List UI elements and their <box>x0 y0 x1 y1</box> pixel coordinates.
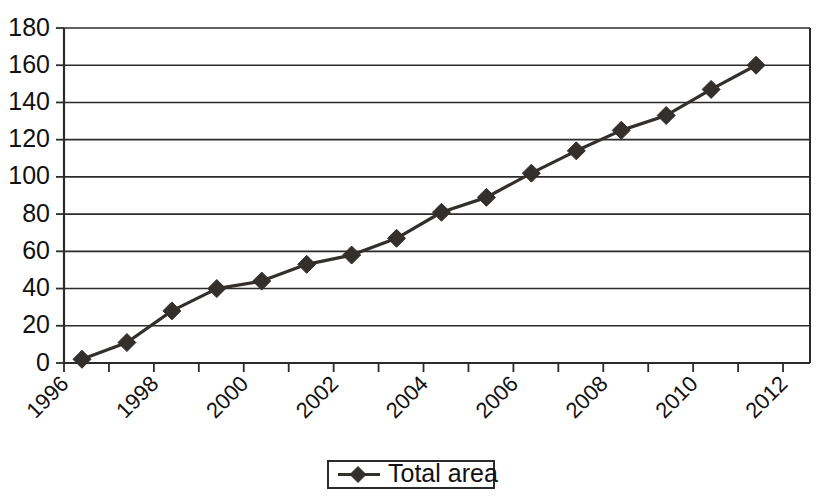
y-tick-label: 40 <box>22 273 50 301</box>
legend-entry-label: Total area <box>388 459 498 487</box>
y-tick-label: 120 <box>8 124 50 152</box>
chart-container: 0204060801001201401601801996199820002002… <box>0 0 817 502</box>
y-tick-label: 60 <box>22 236 50 264</box>
data-point-marker <box>612 121 630 139</box>
y-tick-label: 0 <box>36 348 50 376</box>
data-point-marker <box>522 164 540 182</box>
data-point-marker <box>343 246 361 264</box>
x-tick-label: 2010 <box>650 371 702 423</box>
line-chart: 0204060801001201401601801996199820002002… <box>0 0 817 502</box>
data-point-marker <box>567 142 585 160</box>
y-tick-label: 80 <box>22 199 50 227</box>
y-tick-label: 140 <box>8 87 50 115</box>
data-point-marker <box>702 80 720 98</box>
y-tick-label: 100 <box>8 161 50 189</box>
y-tick-label: 160 <box>8 50 50 78</box>
series-line-total-area <box>82 65 756 359</box>
data-point-marker <box>432 203 450 221</box>
y-tick-label: 180 <box>8 13 50 41</box>
x-tick-label: 2012 <box>740 371 792 423</box>
data-point-marker <box>477 188 495 206</box>
x-tick-label: 2002 <box>291 371 343 423</box>
x-tick-label: 2004 <box>381 371 433 423</box>
x-tick-label: 2000 <box>201 371 253 423</box>
data-point-marker <box>747 56 765 74</box>
data-point-marker <box>388 229 406 247</box>
data-point-marker <box>208 280 226 298</box>
x-tick-label: 1996 <box>21 371 73 423</box>
y-tick-label: 20 <box>22 310 50 338</box>
x-tick-label: 1998 <box>111 371 163 423</box>
data-point-marker <box>73 350 91 368</box>
data-point-marker <box>657 106 675 124</box>
x-tick-label: 2006 <box>471 371 523 423</box>
x-tick-label: 2008 <box>561 371 613 423</box>
data-point-marker <box>298 255 316 273</box>
data-point-marker <box>253 272 271 290</box>
